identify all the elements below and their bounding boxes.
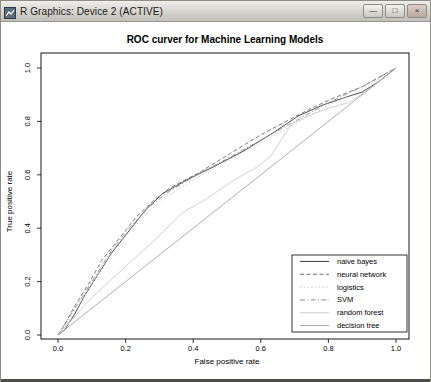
close-icon: × — [415, 6, 420, 15]
y-tick-label: 0.2 — [23, 276, 32, 286]
minimize-icon: — — [369, 6, 377, 15]
legend-label-naive-bayes: naive bayes — [337, 257, 377, 266]
x-tick-label: 1.0 — [391, 344, 401, 353]
x-tick-label: 0.8 — [323, 344, 333, 353]
legend-label-logistics: logistics — [337, 283, 364, 292]
x-tick-label: 0.0 — [53, 344, 63, 353]
maximize-icon: □ — [393, 6, 398, 15]
y-tick-label: 1.0 — [23, 63, 32, 73]
x-tick-label: 0.6 — [256, 344, 266, 353]
r-graphics-window-icon — [4, 5, 16, 17]
window-title: R Graphics: Device 2 (ACTIVE) — [20, 6, 359, 17]
y-tick-label: 0.8 — [23, 116, 32, 126]
legend-label-random-forest: random forest — [337, 308, 384, 317]
plot-canvas: ROC curver for Machine Learning Models0.… — [1, 22, 430, 379]
title-bar[interactable]: R Graphics: Device 2 (ACTIVE) — □ × — [1, 1, 430, 22]
x-axis-label: False positive rate — [195, 357, 260, 366]
x-tick-label: 0.4 — [188, 344, 198, 353]
chart-title: ROC curver for Machine Learning Models — [127, 34, 324, 45]
r-graphics-window: R Graphics: Device 2 (ACTIVE) — □ × ROC … — [0, 0, 431, 382]
legend-label-neural-network: neural network — [337, 270, 386, 279]
y-tick-label: 0.6 — [23, 170, 32, 180]
x-tick-label: 0.2 — [120, 344, 130, 353]
y-tick-label: 0.0 — [23, 330, 32, 340]
legend-label-SVM: SVM — [337, 295, 353, 304]
y-tick-label: 0.4 — [23, 223, 32, 233]
y-axis-label: True positive rate — [5, 170, 14, 232]
maximize-button[interactable]: □ — [385, 4, 405, 18]
legend-label-decision-tree: decision tree — [337, 321, 380, 330]
minimize-button[interactable]: — — [363, 4, 383, 18]
close-button[interactable]: × — [407, 4, 427, 18]
window-controls: — □ × — [363, 4, 427, 18]
roc-chart: ROC curver for Machine Learning Models0.… — [1, 22, 430, 379]
